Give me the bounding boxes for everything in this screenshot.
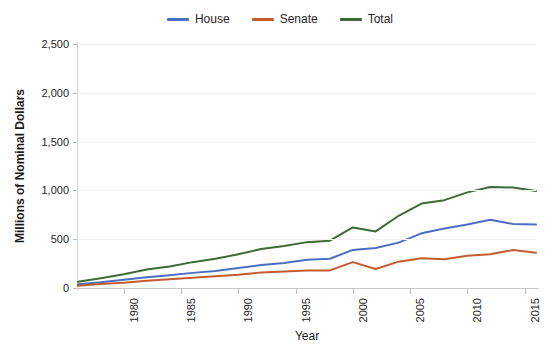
legend-swatch-total	[340, 18, 362, 21]
y-axis-title: Millions of Nominal Dollars	[14, 44, 26, 288]
legend-swatch-senate	[252, 18, 274, 21]
x-axis-title: Year	[78, 330, 536, 342]
x-tick-label: 2000	[358, 298, 369, 322]
legend-item-total[interactable]: Total	[340, 13, 393, 25]
x-tick-label: 2015	[530, 298, 541, 322]
gridline-y	[78, 142, 536, 143]
y-tick-mark	[73, 44, 77, 45]
x-tick-label: 2010	[472, 298, 483, 322]
gridline-y	[78, 190, 536, 191]
legend-item-senate[interactable]: Senate	[252, 13, 318, 25]
x-tick-label: 2005	[415, 298, 426, 322]
x-tick-label: 1980	[129, 298, 140, 322]
legend-label-house: House	[195, 13, 230, 25]
y-tick-mark	[73, 288, 77, 289]
plot-area	[78, 44, 536, 288]
line-chart: House Senate Total 05001,0001,5002,0002,…	[0, 0, 560, 350]
x-tick-mark	[296, 289, 297, 294]
legend-swatch-house	[167, 18, 189, 21]
x-tick-mark	[353, 289, 354, 294]
series-lines	[78, 44, 536, 288]
legend-label-senate: Senate	[280, 13, 318, 25]
y-tick-mark	[73, 93, 77, 94]
y-tick-mark	[73, 142, 77, 143]
gridline-y	[78, 239, 536, 240]
x-axis-line	[77, 288, 539, 289]
series-line-total	[78, 187, 536, 282]
x-tick-mark	[525, 289, 526, 294]
gridline-y	[78, 44, 536, 45]
gridline-y	[78, 93, 536, 94]
chart-legend: House Senate Total	[0, 8, 560, 30]
y-tick-mark	[73, 239, 77, 240]
x-tick-label: 1985	[186, 298, 197, 322]
x-tick-label: 1995	[301, 298, 312, 322]
series-line-house	[78, 220, 536, 285]
y-tick-mark	[73, 190, 77, 191]
x-tick-mark	[124, 289, 125, 294]
x-tick-mark	[410, 289, 411, 294]
legend-item-house[interactable]: House	[167, 13, 230, 25]
x-tick-label: 1990	[243, 298, 254, 322]
x-tick-mark	[467, 289, 468, 294]
x-tick-mark	[238, 289, 239, 294]
series-line-senate	[78, 250, 536, 286]
x-tick-mark	[181, 289, 182, 294]
legend-label-total: Total	[368, 13, 393, 25]
